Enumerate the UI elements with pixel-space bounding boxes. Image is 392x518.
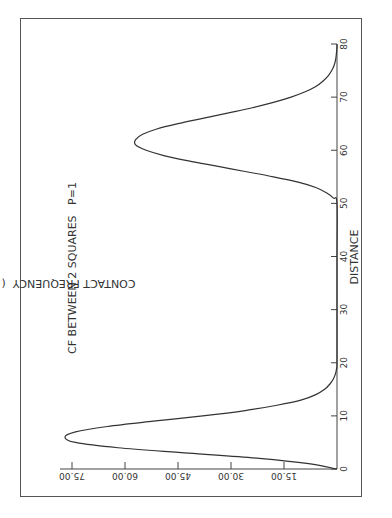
x-tick-label: 30 (339, 304, 349, 316)
x-tick-label: 20 (339, 357, 349, 369)
axes (60, 44, 337, 469)
y-axis-label: CONTACT FREQUENCY ( * 10 +1 ) (0, 277, 135, 290)
chart: 01020304050607080 15.0030.0045.0060.0075… (0, 0, 392, 518)
x-ticks: 01020304050607080 (331, 38, 349, 472)
series-line-cf (65, 44, 337, 469)
y-ticks: 15.0030.0045.0060.0075.00 (59, 462, 297, 481)
x-tick-label: 70 (339, 91, 349, 103)
y-tick-label: 60.00 (112, 471, 138, 481)
x-axis-label: DISTANCE (348, 229, 361, 284)
y-tick-label: 45.00 (165, 471, 191, 481)
x-tick-label: 50 (339, 197, 349, 209)
x-tick-label: 0 (339, 466, 349, 472)
y-tick-label: 30.00 (218, 471, 244, 481)
x-tick-label: 10 (339, 410, 349, 422)
y-tick-label: 15.00 (271, 471, 297, 481)
y-tick-label: 75.00 (59, 471, 85, 481)
chart-title: CF BETWEEN 2 SQUARES P=1 (66, 182, 79, 354)
x-tick-label: 80 (339, 38, 349, 50)
x-tick-label: 60 (339, 144, 349, 156)
